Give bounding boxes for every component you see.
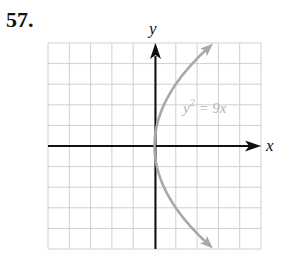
y-axis-label: y <box>147 19 157 38</box>
x-axis-label: x <box>265 136 274 155</box>
curve-equation-label: y2 = 9x <box>181 97 227 116</box>
parabola-graph: x y y2 = 9x <box>0 0 285 262</box>
